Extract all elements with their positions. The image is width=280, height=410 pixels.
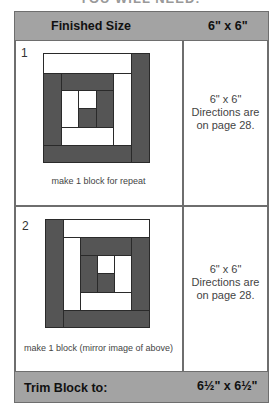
block-table: Finished Size 6" x 6" 1 make 1 block for… [14, 11, 269, 403]
block-2-size: 6" x 6" [184, 263, 267, 276]
block-2-directions: 6" x 6" Directions are on page 28. [184, 263, 267, 302]
row-divider [14, 205, 269, 207]
trim-block-label: Trim Block to: [24, 381, 107, 395]
block-1-directions-line1: Directions are [184, 106, 267, 119]
patch-inner-left-light [63, 237, 81, 311]
patch-bottom-dark [63, 310, 150, 328]
block-1-directions-line2: on page 28. [184, 119, 267, 132]
table-footer: Trim Block to: 6½" x 6½" [14, 371, 269, 403]
patch-center-dark [97, 273, 115, 293]
finished-size-value: 6" x 6" [208, 19, 248, 33]
block-number-1: 1 [21, 46, 28, 60]
trim-block-value: 6½" x 6½" [197, 379, 258, 393]
block-1-size: 6" x 6" [184, 93, 267, 106]
patch-inner-top-dark [80, 237, 132, 256]
block-number-2: 2 [22, 219, 29, 233]
patch-top-light [63, 219, 150, 238]
patch-right-dark [131, 53, 150, 163]
table-header: Finished Size 6" x 6" [14, 11, 269, 41]
block-2-directions-line2: on page 28. [184, 289, 267, 302]
block-1-directions: 6" x 6" Directions are on page 28. [184, 93, 267, 132]
patch-center-dark [78, 108, 97, 128]
log-cabin-block-1-diagram [43, 53, 150, 163]
log-cabin-block-2-diagram [45, 219, 150, 328]
patch-inner-left-light [61, 90, 79, 128]
section-title: YOU WILL NEED: [0, 0, 280, 6]
patch-top-light [43, 53, 132, 74]
block-2-caption: make 1 block (mirror image of above) [14, 343, 183, 353]
patch-inner-left-dark [80, 255, 98, 293]
patch-inner-bottom-light [80, 292, 132, 311]
patch-inner-right-dark [96, 90, 114, 128]
patch-inner-right-light [113, 73, 132, 146]
patch-left-dark [45, 219, 64, 328]
patch-inner-bottom-light [61, 127, 114, 146]
patch-left-dark [43, 73, 62, 146]
patch-inner-right-light [114, 255, 132, 293]
patch-center-light [97, 255, 115, 274]
finished-size-label: Finished Size [51, 19, 131, 33]
patch-right-dark [131, 237, 150, 311]
patch-bottom-dark [43, 145, 132, 163]
block-1-caption: make 1 block for repeat [14, 176, 183, 186]
patch-inner-top-dark [61, 73, 114, 91]
block-2-directions-line1: Directions are [184, 276, 267, 289]
patch-center-light [78, 90, 97, 109]
